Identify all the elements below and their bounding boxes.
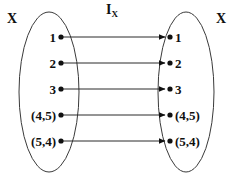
- map-label-subscript: X: [111, 9, 118, 19]
- right-element-label: 1: [175, 31, 182, 44]
- element-dot: [58, 86, 63, 91]
- element-dot: [58, 112, 63, 117]
- left-element-label: 1: [50, 31, 57, 44]
- left-element-label: 3: [50, 83, 57, 96]
- element-dot: [167, 60, 172, 65]
- right-element-label: 2: [175, 57, 182, 70]
- right-element-label: (5,4): [175, 135, 200, 148]
- element-dot: [58, 34, 63, 39]
- element-dot: [58, 138, 63, 143]
- element-dot: [167, 34, 172, 39]
- element-dot: [167, 86, 172, 91]
- right-set-label: X: [216, 12, 226, 26]
- mapping-arrows: [63, 37, 165, 141]
- left-element-label: (5,4): [31, 135, 56, 148]
- right-element-label: (4,5): [175, 109, 200, 122]
- left-element-label: 2: [50, 57, 57, 70]
- right-element-label: 3: [175, 83, 182, 96]
- left-element-label: (4,5): [31, 109, 56, 122]
- element-dot: [167, 112, 172, 117]
- element-dot: [167, 138, 172, 143]
- identity-map-svg: [0, 0, 236, 184]
- element-dot: [58, 60, 63, 65]
- left-set-label: X: [7, 12, 17, 26]
- right-element-dots: [167, 34, 172, 143]
- diagram-canvas: X X IX 1 2 3 (4,5) (5,4) 1 2 3 (4,5) (5,…: [0, 0, 236, 184]
- left-element-dots: [58, 34, 63, 143]
- map-label: IX: [106, 3, 118, 19]
